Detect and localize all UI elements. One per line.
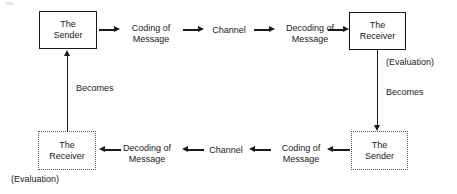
arrowhead-left-icon (249, 146, 255, 152)
scan-artifact (6, 2, 13, 5)
connector-left-becomes (67, 56, 68, 131)
node-top-sender-line2: Sender (53, 30, 82, 41)
label-top-decoding-of-message: Decoding of Message (278, 23, 342, 45)
node-bottom-receiver-line1: The (59, 140, 75, 151)
node-bottom-receiver[interactable]: The Receiver (38, 131, 96, 170)
annotation-evaluation-left-text: (Evaluation) (11, 174, 59, 185)
annotation-evaluation-right: (Evaluation) (386, 57, 434, 68)
arrowhead-left-icon (99, 146, 105, 152)
connector-top-decoding-to-receiver (328, 29, 344, 30)
label-bottom-decoding-line1: Decoding of (114, 143, 180, 154)
arrowhead-right-icon (114, 26, 120, 32)
node-bottom-sender-line1: The (372, 140, 388, 151)
label-bottom-coding-of-message: Coding of Message (272, 143, 330, 165)
label-bottom-decoding-line2: Message (114, 154, 180, 165)
connector-bottom-channel-to-decoding (188, 149, 204, 150)
label-top-decoding-line2: Message (278, 34, 342, 45)
annotation-evaluation-left: (Evaluation) (11, 174, 59, 185)
arrowhead-right-icon (269, 26, 275, 32)
arrowhead-up-icon (64, 50, 70, 56)
node-bottom-sender[interactable]: The Sender (351, 131, 408, 170)
node-top-receiver-line2: Receiver (360, 31, 396, 42)
connector-bottom-decoding-to-receiver (105, 149, 121, 150)
node-top-receiver-line1: The (370, 20, 386, 31)
label-bottom-coding-line1: Coding of (272, 143, 330, 154)
label-top-channel-text: Channel (208, 25, 250, 36)
node-bottom-sender-line2: Sender (365, 151, 394, 162)
annotation-becomes-left-text: Becomes (76, 83, 114, 94)
label-bottom-channel: Channel (205, 145, 247, 156)
connector-right-becomes (377, 50, 378, 128)
label-bottom-channel-text: Channel (205, 145, 247, 156)
label-bottom-coding-line2: Message (272, 154, 330, 165)
connector-bottom-sender-to-coding (333, 149, 350, 150)
node-top-sender-line1: The (60, 19, 76, 30)
annotation-evaluation-right-text: (Evaluation) (386, 57, 434, 68)
connector-top-sender-to-coding (99, 29, 115, 30)
node-bottom-receiver-line2: Receiver (49, 151, 85, 162)
arrowhead-right-icon (198, 26, 204, 32)
label-top-coding-of-message: Coding of Message (122, 23, 180, 45)
arrowhead-left-icon (182, 146, 188, 152)
connector-top-coding-to-channel (183, 29, 199, 30)
node-top-receiver[interactable]: The Receiver (349, 12, 406, 50)
connector-bottom-coding-to-channel (255, 149, 271, 150)
connector-top-channel-to-decoding (254, 29, 270, 30)
annotation-becomes-left: Becomes (76, 83, 114, 94)
annotation-becomes-right: Becomes (386, 87, 424, 98)
label-top-coding-line2: Message (122, 34, 180, 45)
node-top-sender[interactable]: The Sender (39, 11, 97, 49)
label-bottom-decoding-of-message: Decoding of Message (114, 143, 180, 165)
annotation-becomes-right-text: Becomes (386, 87, 424, 98)
label-top-coding-line1: Coding of (122, 23, 180, 34)
label-top-channel: Channel (208, 25, 250, 36)
communication-process-diagram: The Sender Coding of Message Channel Dec… (0, 0, 457, 194)
